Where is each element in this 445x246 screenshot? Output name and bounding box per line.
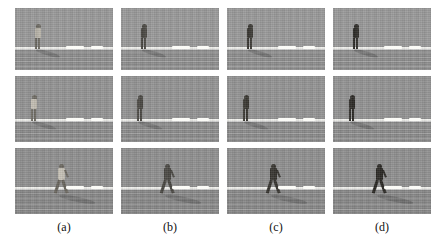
person-figure bbox=[162, 164, 175, 194]
background-line bbox=[227, 37, 325, 38]
person-leg-left bbox=[353, 38, 355, 49]
track-lane-line bbox=[121, 124, 219, 125]
background-line bbox=[227, 18, 325, 19]
track-lane-line bbox=[227, 52, 325, 53]
sky-region bbox=[227, 8, 325, 48]
background-line bbox=[15, 107, 113, 108]
track-line-highlight bbox=[197, 186, 209, 189]
person-leg-left bbox=[247, 38, 249, 49]
track-lane-line bbox=[121, 129, 219, 130]
track-line-highlight bbox=[303, 118, 315, 121]
track-lane-line bbox=[15, 209, 113, 210]
video-frame-panel bbox=[15, 148, 113, 214]
person-figure bbox=[347, 95, 358, 121]
person-leg-right bbox=[144, 38, 146, 49]
track-line-highlight bbox=[303, 46, 315, 49]
track-lane-line bbox=[15, 52, 113, 53]
video-frame-panel bbox=[227, 76, 325, 142]
track-lane-line bbox=[333, 61, 431, 62]
track-line-highlight bbox=[197, 46, 209, 49]
background-line bbox=[15, 177, 113, 178]
track-lane-line bbox=[333, 52, 431, 53]
person-leg-left bbox=[137, 109, 139, 121]
track-lane-line bbox=[333, 133, 431, 134]
track-lane-line bbox=[333, 129, 431, 130]
track-lane-line bbox=[227, 133, 325, 134]
track-lane-line bbox=[333, 124, 431, 125]
track-lane-line bbox=[121, 198, 219, 199]
background-line bbox=[15, 27, 113, 28]
background-line bbox=[121, 27, 219, 28]
track-line-highlight bbox=[91, 186, 103, 189]
person-leg-right bbox=[34, 109, 36, 121]
video-frame-panel bbox=[15, 8, 113, 70]
background-line bbox=[15, 37, 113, 38]
person-leg-right bbox=[356, 38, 358, 49]
background-line bbox=[227, 97, 325, 98]
track-lane-line bbox=[15, 193, 113, 194]
background-line bbox=[15, 97, 113, 98]
background-line bbox=[227, 86, 325, 87]
person-leg-right bbox=[140, 109, 142, 121]
background-line bbox=[333, 177, 431, 178]
track-lane-line bbox=[227, 209, 325, 210]
background-line bbox=[15, 86, 113, 87]
track-lane-line bbox=[121, 204, 219, 205]
panel-caption-b: (b) bbox=[121, 218, 219, 238]
ground-region bbox=[333, 48, 431, 70]
background-line bbox=[227, 177, 325, 178]
track-lane-line bbox=[227, 198, 325, 199]
person-leg-right bbox=[250, 38, 252, 49]
ground-region bbox=[227, 120, 325, 142]
video-frame-panel bbox=[227, 148, 325, 214]
background-line bbox=[227, 107, 325, 108]
track-lane-line bbox=[333, 204, 431, 205]
person-leg-left bbox=[243, 109, 245, 121]
background-line bbox=[333, 107, 431, 108]
background-line bbox=[227, 167, 325, 168]
track-lane-line bbox=[333, 193, 431, 194]
track-lane-line bbox=[333, 66, 431, 67]
track-line-highlight bbox=[172, 118, 190, 121]
caption-row: (a) (b) (c) (d) bbox=[15, 218, 431, 238]
track-lane-line bbox=[121, 66, 219, 67]
background-line bbox=[227, 27, 325, 28]
track-lane-line bbox=[333, 57, 431, 58]
track-line-highlight bbox=[278, 118, 296, 121]
track-lane-line bbox=[15, 204, 113, 205]
track-lane-line bbox=[121, 61, 219, 62]
track-lane-line bbox=[227, 66, 325, 67]
track-lane-line bbox=[15, 66, 113, 67]
video-frame-panel bbox=[121, 76, 219, 142]
person-figure bbox=[374, 164, 387, 194]
track-line-highlight bbox=[172, 186, 190, 189]
ground-region bbox=[333, 120, 431, 142]
person-figure bbox=[56, 164, 69, 194]
track-lane-line bbox=[121, 209, 219, 210]
background-line bbox=[15, 158, 113, 159]
figure-image-grid: (a) (b) (c) (d) bbox=[0, 0, 445, 246]
background-line bbox=[121, 158, 219, 159]
person-leg-right bbox=[246, 109, 248, 121]
track-lane-line bbox=[121, 138, 219, 139]
ground-region bbox=[15, 120, 113, 142]
background-line bbox=[121, 97, 219, 98]
track-line-highlight bbox=[384, 118, 402, 121]
track-lane-line bbox=[227, 124, 325, 125]
background-line bbox=[333, 158, 431, 159]
track-lane-line bbox=[121, 57, 219, 58]
track-lane-line bbox=[333, 138, 431, 139]
ground-region bbox=[121, 48, 219, 70]
background-line bbox=[333, 167, 431, 168]
track-lane-line bbox=[15, 57, 113, 58]
track-line-highlight bbox=[91, 118, 103, 121]
track-line-highlight bbox=[197, 118, 209, 121]
background-line bbox=[121, 167, 219, 168]
video-frame-panel bbox=[121, 148, 219, 214]
track-lane-line bbox=[227, 193, 325, 194]
sky-region bbox=[333, 8, 431, 48]
person-leg-left bbox=[35, 38, 37, 49]
video-frame-panel bbox=[333, 8, 431, 70]
track-lane-line bbox=[333, 209, 431, 210]
video-frame-panel bbox=[121, 8, 219, 70]
